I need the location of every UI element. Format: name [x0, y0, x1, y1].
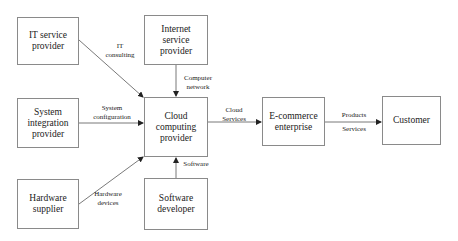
node-hardware-supplier: Hardware supplier: [17, 179, 79, 229]
node-label: Customer: [393, 115, 430, 126]
node-label: Internet service provider: [160, 24, 192, 57]
node-cloud-computing-provider: Cloud computing provider: [144, 97, 208, 157]
edge-label-products: Products: [336, 111, 372, 120]
edge-label-cloud-services: Cloud Services: [216, 106, 252, 124]
node-label: System integration provider: [27, 107, 68, 140]
node-software-developer: Software developer: [144, 178, 208, 230]
node-internet-service-provider: Internet service provider: [144, 15, 208, 65]
edge-label-it-consulting: IT consulting: [100, 42, 140, 60]
node-ecommerce-enterprise: E-commerce enterprise: [262, 97, 325, 146]
node-label: E-commerce enterprise: [269, 111, 318, 133]
edge-label-software: Software: [178, 160, 214, 169]
node-label: Cloud computing provider: [147, 111, 205, 144]
node-customer: Customer: [382, 96, 441, 145]
edge-label-hardware-devices: Hardware devices: [90, 190, 126, 208]
node-label: IT service provider: [29, 30, 67, 52]
edge-label-computer-network: Computer network: [178, 74, 218, 92]
node-label: Hardware supplier: [29, 193, 66, 215]
edge-label-services: Services: [336, 125, 372, 134]
edge-label-system-configuration: System configuration: [86, 104, 138, 122]
node-system-integration-provider: System integration provider: [17, 98, 79, 148]
node-it-service-provider: IT service provider: [17, 17, 79, 65]
node-label: Software developer: [157, 193, 194, 215]
